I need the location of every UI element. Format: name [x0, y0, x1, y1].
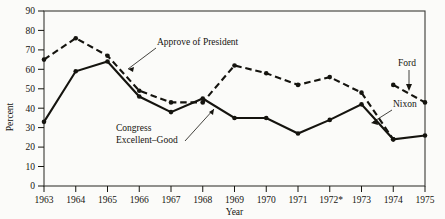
data-point [137, 94, 142, 99]
x-tick-label-1965: 1965 [98, 195, 117, 205]
chart-figure: 90 80 70 60 50 40 30 20 10 0 Percent [0, 0, 445, 219]
y-tick-label-60: 60 [26, 65, 36, 75]
y-tick-label-70: 70 [26, 45, 36, 55]
x-tick-label-1973: 1973 [352, 195, 371, 205]
data-point [391, 137, 396, 142]
chart-svg: 90 80 70 60 50 40 30 20 10 0 Percent [0, 0, 445, 219]
data-point [42, 120, 47, 125]
data-point [359, 90, 364, 95]
y-tick-label-20: 20 [26, 142, 36, 152]
x-tick-label-1964: 1964 [66, 195, 85, 205]
x-tick-label-1963: 1963 [35, 195, 54, 205]
data-point [137, 88, 142, 93]
data-point [200, 96, 205, 101]
y-tick-label-50: 50 [26, 84, 36, 94]
y-tick-label-90: 90 [26, 6, 36, 16]
x-tick-label-1974: 1974 [384, 195, 403, 205]
y-tick-label-30: 30 [26, 123, 36, 133]
data-point [105, 53, 110, 58]
annotation-label-congress: Congress [116, 123, 152, 133]
data-point [73, 69, 78, 74]
data-point [169, 100, 174, 105]
x-tick-label-1971: 1971 [289, 195, 308, 205]
data-point [423, 133, 428, 138]
y-axis-title: Percent [5, 102, 15, 131]
data-point [391, 83, 396, 88]
x-tick-label-1968: 1968 [193, 195, 212, 205]
x-tick-label-1972: 1972* [319, 195, 343, 205]
data-point [232, 63, 237, 68]
data-point [169, 110, 174, 115]
data-point [327, 75, 332, 80]
y-tick-label-0: 0 [30, 181, 35, 191]
data-point [296, 131, 301, 136]
annotation-label-excellent-good: Excellent–Good [116, 135, 178, 145]
annotation-label-nixon: Nixon [393, 99, 417, 109]
y-tick-label-10: 10 [26, 162, 36, 172]
x-tick-label-1967: 1967 [162, 195, 181, 205]
data-point [423, 100, 428, 105]
data-point [359, 102, 364, 107]
x-tick-label-1970: 1970 [257, 195, 276, 205]
x-tick-label-1966: 1966 [130, 195, 149, 205]
data-point [327, 118, 332, 123]
x-tick-label-1969: 1969 [225, 195, 244, 205]
y-tick-label-40: 40 [26, 104, 36, 114]
data-point [296, 83, 301, 88]
annotation-label-ford: Ford [398, 58, 416, 68]
x-axis-title: Year [226, 207, 244, 217]
data-point [42, 57, 47, 62]
data-point [232, 116, 237, 121]
data-point [264, 71, 269, 76]
y-tick-label-80: 80 [26, 26, 36, 36]
data-point [73, 36, 78, 41]
data-point [264, 116, 269, 121]
annotation-label-approve-of-president: Approve of President [157, 37, 239, 47]
data-point [105, 59, 110, 64]
x-tick-label-1975: 1975 [416, 195, 435, 205]
